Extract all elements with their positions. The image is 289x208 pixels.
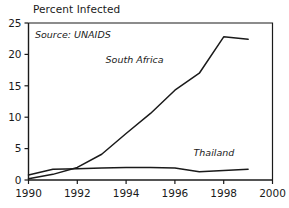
x-tick-label: 1990 xyxy=(15,187,42,199)
x-axis-tick-labels: 199019921994199619982000 xyxy=(15,187,286,199)
series-label-south-africa: South Africa xyxy=(106,54,164,65)
x-tick-label: 1994 xyxy=(113,187,140,199)
y-axis-tick-labels: 0510152025 xyxy=(8,17,21,186)
percent-infected-line-chart: 0510152025 199019921994199619982000 Sout… xyxy=(0,0,289,208)
y-tick-label: 25 xyxy=(8,17,21,29)
series-label-thailand: Thailand xyxy=(194,147,236,158)
y-tick-label: 20 xyxy=(8,48,21,60)
series-inline-labels: South AfricaThailand xyxy=(106,54,236,157)
chart-container: 0510152025 199019921994199619982000 Sout… xyxy=(0,0,289,208)
chart-title: Percent Infected xyxy=(33,3,120,15)
x-tick-label: 1998 xyxy=(210,187,237,199)
y-tick-label: 15 xyxy=(8,80,21,92)
x-tick-label: 1996 xyxy=(162,187,189,199)
x-tick-label: 1992 xyxy=(64,187,91,199)
x-tick-label: 2000 xyxy=(259,187,286,199)
y-tick-label: 5 xyxy=(15,142,22,154)
y-tick-label: 0 xyxy=(15,174,22,186)
plot-frame xyxy=(29,23,273,180)
y-tick-label: 10 xyxy=(8,111,21,123)
source-annotation: Source: UNAIDS xyxy=(35,29,111,40)
